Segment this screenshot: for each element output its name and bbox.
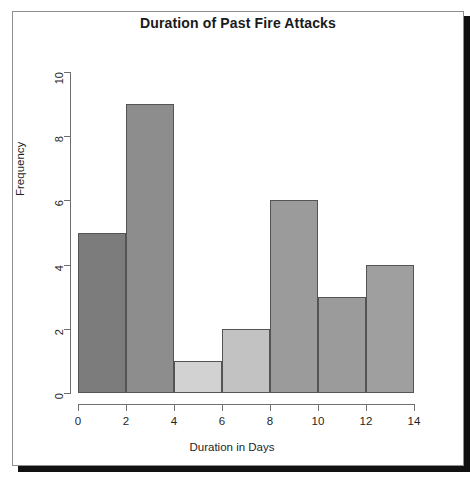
x-axis-tick	[78, 404, 79, 411]
x-axis-tick	[414, 404, 415, 411]
y-axis-tick-label: 10	[53, 72, 65, 84]
y-axis-line	[70, 72, 71, 394]
histogram-bar	[270, 200, 318, 393]
x-axis-tick-label: 10	[298, 415, 338, 427]
figure-screenshot: Duration of Past Fire Attacks 0246810 Fr…	[0, 0, 476, 480]
y-axis-tick-label: 4	[53, 265, 65, 271]
x-axis-tick-label: 0	[58, 415, 98, 427]
y-axis-tick-label-wrap: 4	[0, 259, 59, 271]
y-axis-tick-label: 6	[53, 200, 65, 206]
y-axis-tick-label: 2	[53, 329, 65, 335]
x-axis-tick-label: 2	[106, 415, 146, 427]
y-axis-tick-label-wrap: 8	[0, 130, 59, 142]
histogram-bar	[126, 104, 174, 393]
x-axis-tick-label: 14	[394, 415, 434, 427]
histogram-bar	[366, 265, 414, 393]
x-axis-tick	[222, 404, 223, 411]
plot-area: 0246810 Frequency 02468101214 Duration i…	[0, 0, 476, 480]
x-axis-tick-label: 12	[346, 415, 386, 427]
y-axis-tick-label: 8	[53, 136, 65, 142]
y-axis-tick-label-wrap: 6	[0, 194, 59, 206]
x-axis-line	[78, 404, 415, 405]
x-axis-tick	[174, 404, 175, 411]
histogram-bar	[174, 361, 222, 393]
x-axis-tick	[366, 404, 367, 411]
histogram-bars	[78, 72, 414, 393]
y-axis-title: Frequency	[14, 142, 26, 196]
x-axis-tick	[318, 404, 319, 411]
x-axis-tick-label: 6	[202, 415, 242, 427]
histogram-bar	[78, 233, 126, 394]
x-axis-tick-label: 4	[154, 415, 194, 427]
y-axis-tick-label-wrap: 10	[0, 66, 59, 78]
x-axis-tick-label: 8	[250, 415, 290, 427]
x-axis-tick	[270, 404, 271, 411]
x-axis-tick	[126, 404, 127, 411]
y-axis-tick-label-wrap: 2	[0, 323, 59, 335]
x-axis-title: Duration in Days	[0, 441, 464, 453]
histogram-bar	[222, 329, 270, 393]
y-axis-tick-label-wrap: 0	[0, 387, 59, 399]
y-axis-tick-label: 0	[53, 393, 65, 399]
histogram-bar	[318, 297, 366, 393]
